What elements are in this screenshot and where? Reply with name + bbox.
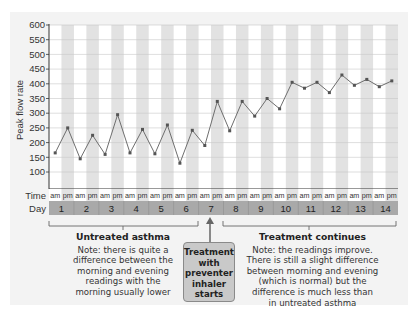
data-point-marker xyxy=(390,79,393,82)
data-point-marker xyxy=(178,162,181,165)
arrow-head-icon xyxy=(206,217,214,224)
day-label: 12 xyxy=(330,203,341,214)
time-label: am xyxy=(250,191,260,200)
pm-band xyxy=(361,25,373,189)
day-label: 5 xyxy=(159,203,164,214)
time-label: am xyxy=(275,191,285,200)
time-row-label: Time xyxy=(25,190,46,201)
time-label: pm xyxy=(362,191,372,200)
data-point-marker xyxy=(365,78,368,81)
time-label: am xyxy=(300,191,310,200)
untreated-annotation: Untreated asthma Note: there is quite a … xyxy=(62,232,184,298)
treatment-note-line: in untreated asthma xyxy=(240,298,385,309)
data-point-marker xyxy=(153,152,156,155)
data-point-marker xyxy=(340,74,343,77)
day-label: 9 xyxy=(258,203,263,214)
pm-band xyxy=(111,25,123,189)
day-label: 8 xyxy=(233,203,238,214)
day-label: 10 xyxy=(281,203,292,214)
day-label: 11 xyxy=(306,203,316,214)
time-label: am xyxy=(100,191,110,200)
pm-band xyxy=(136,25,148,189)
time-label: pm xyxy=(162,191,172,200)
day-label: 2 xyxy=(84,203,89,214)
time-label: pm xyxy=(387,191,397,200)
data-point-marker xyxy=(266,97,269,100)
data-point-marker xyxy=(166,124,169,127)
data-point-marker xyxy=(191,129,194,132)
y-tick-label: 100 xyxy=(29,166,45,177)
untreated-note-line: readings with the xyxy=(62,276,184,287)
time-label: pm xyxy=(262,191,272,200)
time-label: am xyxy=(349,191,359,200)
data-point-marker xyxy=(241,100,244,103)
day-label: 6 xyxy=(183,203,188,214)
day-row: 1234567891011121314 xyxy=(49,201,398,215)
data-point-marker xyxy=(228,129,231,132)
time-label: am xyxy=(324,191,334,200)
y-tick-label: 250 xyxy=(29,122,45,133)
data-point-marker xyxy=(104,153,107,156)
data-point-marker xyxy=(91,134,94,137)
treatment-note-line: difference is much less than xyxy=(240,287,385,298)
treatment-start-line: inhaler xyxy=(184,279,234,290)
y-tick-label: 600 xyxy=(29,19,45,30)
data-point-marker xyxy=(253,115,256,118)
data-point-marker xyxy=(303,87,306,90)
day-label: 14 xyxy=(380,203,391,214)
treatment-start-box: Treatment with preventer inhaler starts xyxy=(183,242,235,302)
day-label: 1 xyxy=(59,203,64,214)
time-label: pm xyxy=(63,191,73,200)
pm-band xyxy=(86,25,98,189)
y-tick-label: 350 xyxy=(29,93,45,104)
treatment-start-line: starts xyxy=(184,289,234,300)
data-point-marker xyxy=(203,144,206,147)
day-row-label: Day xyxy=(29,203,46,214)
treatment-note-line: There is still a slight difference xyxy=(240,255,385,266)
y-tick-label: 200 xyxy=(29,137,45,148)
treatment-continues-bracket xyxy=(223,221,396,230)
time-label: pm xyxy=(187,191,197,200)
time-label: am xyxy=(200,191,210,200)
y-tick-label: 400 xyxy=(29,78,45,89)
pm-band xyxy=(61,25,73,189)
treatment-start-line: with xyxy=(184,258,234,269)
time-label: pm xyxy=(88,191,98,200)
data-point-marker xyxy=(328,91,331,94)
data-point-marker xyxy=(216,100,219,103)
pm-band xyxy=(261,25,273,189)
time-label: pm xyxy=(113,191,123,200)
y-tick-label: 550 xyxy=(29,34,45,45)
data-point-marker xyxy=(278,107,281,110)
data-point-marker xyxy=(316,81,319,84)
pm-band xyxy=(386,25,398,189)
untreated-note-line: Note: there is quite a xyxy=(62,245,184,256)
pm-band xyxy=(211,25,223,189)
untreated-note-line: morning and evening xyxy=(62,266,184,277)
time-label: pm xyxy=(212,191,222,200)
time-label: pm xyxy=(337,191,347,200)
time-label: pm xyxy=(137,191,147,200)
pm-band xyxy=(161,25,173,189)
time-label: am xyxy=(75,191,85,200)
untreated-note-line: difference between the xyxy=(62,255,184,266)
time-label: am xyxy=(50,191,60,200)
y-tick-label: 150 xyxy=(29,152,45,163)
time-label: pm xyxy=(237,191,247,200)
day-label: 7 xyxy=(208,203,213,214)
data-point-marker xyxy=(116,113,119,116)
time-label: am xyxy=(225,191,235,200)
treatment-start-line: Treatment xyxy=(184,247,234,258)
time-label: pm xyxy=(287,191,297,200)
data-point-marker xyxy=(66,126,69,129)
y-tick-label: 500 xyxy=(29,49,45,60)
untreated-heading: Untreated asthma xyxy=(62,232,184,243)
data-point-marker xyxy=(378,85,381,88)
treatment-continues-annotation: Treatment continues Note: the readings i… xyxy=(240,232,385,308)
time-label: am xyxy=(374,191,384,200)
treatment-note-line: Note: the readings improve. xyxy=(240,245,385,256)
treatment-note-line: (which is normal) but the xyxy=(240,276,385,287)
time-label: pm xyxy=(312,191,322,200)
y-tick-label: 450 xyxy=(29,63,45,74)
day-label: 13 xyxy=(355,203,366,214)
